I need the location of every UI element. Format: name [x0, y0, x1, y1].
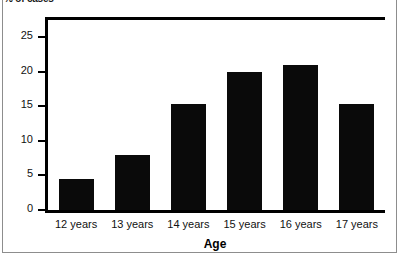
chart-page: % of cases 0510152025 12 years13 years14…	[0, 0, 404, 267]
x-axis-tick-label: 17 years	[327, 218, 387, 230]
y-axis-tick	[38, 36, 45, 38]
bar	[115, 155, 150, 210]
y-axis-tick-label: 5	[0, 167, 33, 179]
y-axis-tick	[38, 105, 45, 107]
bar	[227, 72, 262, 210]
x-axis-title: Age	[45, 237, 385, 251]
y-axis-tick	[38, 209, 45, 211]
bar	[171, 104, 206, 210]
plot-area	[48, 20, 385, 210]
bar	[339, 104, 374, 210]
page-border-bottom	[2, 252, 397, 253]
x-axis-tick-label: 12 years	[46, 218, 106, 230]
bar	[283, 65, 318, 210]
y-axis-tick-label: 0	[0, 202, 33, 214]
x-axis-tick-label: 13 years	[102, 218, 162, 230]
y-axis-tick	[38, 140, 45, 142]
y-axis-tick	[38, 174, 45, 176]
x-axis-tick-label: 14 years	[158, 218, 218, 230]
bar	[59, 179, 94, 210]
x-axis-tick-label: 16 years	[271, 218, 331, 230]
y-axis-label: % of cases	[4, 0, 54, 4]
y-axis-tick-label: 15	[0, 98, 33, 110]
x-axis-tick-label: 15 years	[215, 218, 275, 230]
y-axis-tick-label: 25	[0, 29, 33, 41]
y-axis-tick-label: 20	[0, 64, 33, 76]
y-axis-tick	[38, 71, 45, 73]
page-border-right	[396, 0, 397, 253]
y-axis-tick-label: 10	[0, 133, 33, 145]
